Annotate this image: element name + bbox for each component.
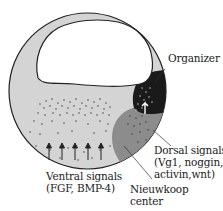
- dorsal-signals-line3: activin,wnt): [154, 168, 215, 180]
- diagram-canvas: Organizer Dorsal signals (Vg1, noggin, a…: [0, 0, 223, 211]
- organizer-label: Organizer: [168, 52, 220, 64]
- ventral-signals-line2: (FGF, BMP-4): [46, 182, 115, 194]
- blastocoel-cavity: [37, 20, 153, 86]
- ventral-signals-label: Ventral signals: [46, 170, 122, 182]
- nieuwkoop-center-label: center: [130, 195, 163, 207]
- dorsal-signals-label: Dorsal signals: [154, 144, 223, 156]
- dorsal-signals-line2: (Vg1, noggin,: [154, 156, 223, 168]
- nieuwkoop-label: Nieuwkoop: [130, 183, 188, 195]
